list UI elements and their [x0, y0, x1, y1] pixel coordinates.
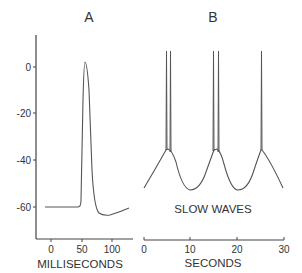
panel-a-xtick-100: 100	[104, 244, 121, 255]
panel-a-ytick-0: 0	[25, 62, 31, 73]
panel-b-slow-wave-trace	[144, 149, 283, 190]
panel-a-ytick-neg20: -20	[17, 108, 32, 119]
panel-a-xlabel: MILLISECONDS	[37, 258, 123, 270]
panel-a-title: A	[84, 9, 94, 25]
panel-a-action-potential-trace	[45, 62, 129, 215]
panel-a-ytick-neg40: -40	[17, 155, 32, 166]
panel-b-spikes	[166, 51, 262, 152]
panel-a-xtick-0: 0	[48, 244, 54, 255]
panel-b-xtick-20: 20	[231, 244, 243, 255]
panel-b-title: B	[208, 9, 217, 25]
panel-b-xlabel: SECONDS	[185, 257, 242, 269]
panel-b-xtick-0: 0	[141, 244, 147, 255]
panel-b-annotation-slow-waves: SLOW WAVES	[174, 203, 252, 215]
figure: A 0 -20 -40 -60 0 50 100 MILLISECONDS B …	[0, 0, 302, 273]
panel-b-xtick-10: 10	[184, 244, 196, 255]
panel-b-xtick-30: 30	[278, 244, 290, 255]
panel-a-ytick-neg60: -60	[17, 202, 32, 213]
panel-a-xtick-50: 50	[76, 244, 88, 255]
